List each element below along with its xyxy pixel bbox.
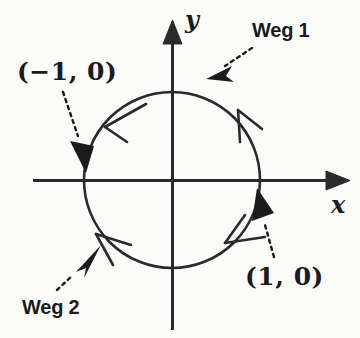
x-axis-label: x <box>331 193 345 217</box>
direction-marker-lower-left <box>96 234 131 265</box>
leader-pos-one-line <box>265 225 274 257</box>
leader-neg-one-line <box>63 92 78 136</box>
leader-pos-one-arrowhead <box>252 188 274 221</box>
unit-circle-diagram: Weg 1 Weg 2 (−1, 0) (1, 0) x y <box>0 0 360 338</box>
leader-neg-one-arrowhead <box>70 141 94 173</box>
leader-neg-one <box>63 92 94 173</box>
direction-marker-upper-left <box>105 104 146 142</box>
y-axis-arrowhead <box>163 20 182 44</box>
leader-weg1 <box>206 48 252 82</box>
leader-weg2-line <box>57 275 73 290</box>
leader-weg2 <box>57 245 101 290</box>
x-axis-arrowhead <box>326 171 350 190</box>
point-label-negative-one: (−1, 0) <box>17 59 117 84</box>
point-label-positive-one: (1, 0) <box>245 264 324 289</box>
path-label-weg1: Weg 1 <box>252 20 310 40</box>
leader-weg1-line <box>225 48 252 66</box>
leader-pos-one <box>252 188 274 257</box>
y-axis-label: y <box>185 8 199 32</box>
leader-weg2-arrowhead <box>76 245 101 278</box>
leader-weg1-arrowhead <box>206 66 234 82</box>
path-label-weg2: Weg 2 <box>22 297 80 317</box>
